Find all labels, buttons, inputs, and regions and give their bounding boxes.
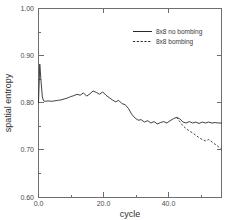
chart-legend: 8x8 no bombing 8x8 bombing [133,28,203,46]
y-tick-label-1.00: 1.00 [20,5,34,12]
series-line-no-bombing [39,64,222,124]
y-tick-label-0.90: 0.90 [20,52,34,59]
y-tick-label-0.60: 0.60 [20,194,34,201]
line-chart: 1.00 0.90 0.80 0.70 0.60 0.0 20.0 40.0 c… [0,0,229,220]
y-axis-title: spatial entropy [3,73,13,132]
x-tick-label-0: 0.0 [34,200,44,207]
legend-label-no-bombing: 8x8 no bombing [156,28,203,36]
x-tick-label-20: 20.0 [97,200,111,207]
y-tick-marks [39,9,44,198]
y-tick-marks-right [217,9,222,150]
plot-frame [39,9,222,198]
chart-figure: 1.00 0.90 0.80 0.70 0.60 0.0 20.0 40.0 c… [0,0,229,220]
x-tick-label-40: 40.0 [162,200,176,207]
y-tick-label-0.70: 0.70 [20,146,34,153]
legend-label-bombing: 8x8 bombing [156,38,194,46]
y-tick-label-0.80: 0.80 [20,99,34,106]
x-tick-marks [39,9,202,198]
x-axis-title: cycle [120,209,141,219]
